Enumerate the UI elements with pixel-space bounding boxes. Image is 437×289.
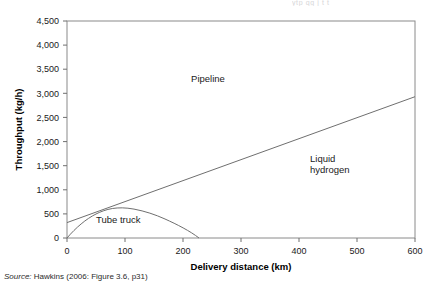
x-tick-label: 400 [291, 246, 306, 256]
annotation-hydrogen: hydrogen [310, 164, 350, 175]
y-tick-labels: 0 500 1,000 1,500 2,000 2,500 3,000 3,50… [36, 16, 59, 243]
plot-frame [67, 21, 415, 238]
x-tick-label: 500 [349, 246, 364, 256]
figure-container: ytp qg j t t [0, 0, 437, 289]
source-citation: Hawkins (2006: Figure 3.6, p31) [34, 272, 148, 281]
x-axis-title: Delivery distance (km) [191, 261, 292, 272]
y-tick-label: 3,500 [36, 64, 59, 74]
source-label: Source: [4, 272, 32, 281]
x-tick-label: 100 [117, 246, 132, 256]
throughput-vs-distance-chart: 0 500 1,000 1,500 2,000 2,500 3,000 3,50… [0, 0, 437, 289]
y-tick-label: 4,000 [36, 40, 59, 50]
y-tick-label: 4,500 [36, 16, 59, 26]
y-axis-ticks [63, 21, 67, 238]
x-tick-label: 200 [175, 246, 190, 256]
y-tick-label: 2,000 [36, 137, 59, 147]
x-tick-labels: 0 100 200 300 400 500 600 [64, 246, 422, 256]
annotation-pipeline: Pipeline [191, 73, 225, 84]
y-tick-label: 2,500 [36, 113, 59, 123]
x-tick-label: 0 [64, 246, 69, 256]
x-tick-label: 600 [407, 246, 422, 256]
y-tick-label: 1,500 [36, 161, 59, 171]
y-tick-label: 0 [54, 233, 59, 243]
source-caption: Source: Hawkins (2006: Figure 3.6, p31) [4, 272, 148, 281]
x-tick-label: 300 [233, 246, 248, 256]
y-tick-label: 1,000 [36, 185, 59, 195]
annotation-liquid: Liquid [310, 153, 335, 164]
y-tick-label: 3,000 [36, 89, 59, 99]
x-axis-ticks [67, 238, 415, 242]
y-axis-title: Throughput (kg/h) [13, 89, 24, 171]
y-tick-label: 500 [44, 209, 59, 219]
annotation-tube-truck: Tube truck [96, 214, 141, 225]
